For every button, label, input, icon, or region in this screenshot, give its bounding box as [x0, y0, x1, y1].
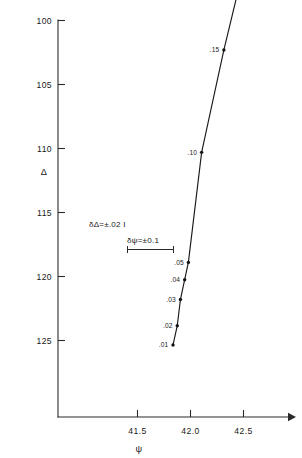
x-axis-arrowhead-icon	[288, 413, 296, 422]
y-axis-title: Δ	[41, 167, 48, 177]
y-tick-label-115: 115	[37, 208, 52, 218]
data-point-label: .01	[159, 341, 169, 348]
x-axis: 41.5 42.0 42.5 ψ	[58, 410, 296, 454]
y-axis-tick-labels: 100 105 110 115 120 125	[36, 16, 52, 346]
data-point-label: .02	[163, 322, 173, 329]
y-tick-label-105: 105	[36, 80, 52, 90]
data-point-label: .04	[170, 276, 180, 283]
annotation-group: δΔ=±.02 I δψ=±0.1	[89, 220, 174, 253]
y-tick-label-125: 125	[36, 336, 52, 346]
data-point-marker	[200, 151, 203, 154]
x-axis-ticks	[138, 410, 244, 417]
y-axis: 100 105 110 115 120 125 Δ	[36, 16, 65, 417]
data-point-marker	[179, 298, 182, 301]
y-tick-label-100: 100	[36, 16, 52, 26]
data-point-marker	[176, 324, 179, 327]
x-axis-tick-labels: 41.5 42.0 42.5	[128, 426, 252, 436]
delta-psi-scatter-chart: 100 105 110 115 120 125 Δ 41.5 42.0 42.5	[0, 0, 302, 458]
data-point-label: .15	[210, 46, 220, 53]
data-point-label: .03	[166, 296, 176, 303]
data-point-marker	[222, 48, 225, 51]
psi-error-bar	[127, 246, 174, 253]
data-point-label: .05	[174, 259, 184, 266]
figure-container: 100 105 110 115 120 125 Δ 41.5 42.0 42.5	[0, 0, 302, 458]
y-tick-label-120: 120	[36, 272, 52, 282]
y-axis-ticks	[58, 21, 65, 341]
data-series-group: .01.02.03.04.05.10.15.20	[159, 0, 248, 348]
x-axis-title: ψ	[136, 444, 143, 454]
psi-uncertainty-annotation: δψ=±0.1	[127, 236, 159, 245]
data-point-marker	[171, 343, 174, 346]
data-point-marker	[187, 261, 190, 264]
delta-uncertainty-annotation: δΔ=±.02 I	[89, 220, 126, 229]
data-point-label: .10	[187, 149, 197, 156]
y-tick-label-110: 110	[37, 144, 52, 154]
data-point-marker	[183, 278, 186, 281]
data-point-labels: .01.02.03.04.05.10.15.20	[159, 0, 242, 348]
x-tick-label-41-5: 41.5	[128, 426, 146, 436]
x-tick-label-42-5: 42.5	[234, 426, 252, 436]
x-tick-label-42-0: 42.0	[181, 426, 199, 436]
